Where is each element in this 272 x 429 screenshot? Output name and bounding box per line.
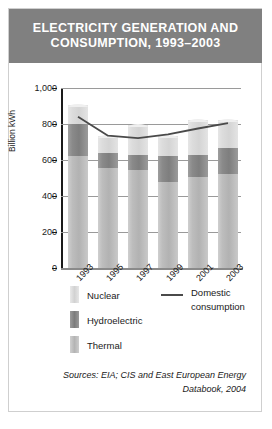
y-axis-tick-labels: 02004006008001,000: [9, 88, 57, 268]
chart-legend: Nuclear Hydroelectric Thermal Domestic c…: [9, 284, 262, 356]
legend-swatch-hydroelectric: [70, 311, 79, 328]
y-tick-mark: [52, 232, 57, 233]
legend-label-domestic-line2: consumption: [191, 301, 245, 312]
page-title: ELECTRICITY GENERATION AND CONSUMPTION, …: [9, 9, 262, 63]
legend-label-hydroelectric: Hydroelectric: [87, 315, 142, 326]
legend-swatch-thermal: [70, 336, 79, 353]
figure-card: ELECTRICITY GENERATION AND CONSUMPTION, …: [0, 0, 272, 429]
y-tick-mark: [52, 196, 57, 197]
legend-swatch-domestic-consumption: [161, 294, 183, 296]
sources-note: Sources: EIA; CIS and East European Ener…: [24, 368, 246, 396]
y-tick-mark: [52, 160, 57, 161]
line-path-domestic-consumption: [78, 117, 228, 138]
y-tick-mark: [52, 268, 57, 269]
legend-swatch-nuclear: [70, 286, 79, 303]
legend-label-thermal: Thermal: [87, 340, 122, 351]
y-tick-mark: [52, 124, 57, 125]
sources-line2: Databook, 2004: [24, 382, 246, 396]
y-tick-mark: [52, 88, 57, 89]
chart-title-band: ELECTRICITY GENERATION AND CONSUMPTION, …: [9, 9, 262, 63]
chart-title-line2: CONSUMPTION, 1993–2003: [51, 36, 221, 51]
domestic-consumption-line: [61, 88, 241, 268]
chart-title-line1: ELECTRICITY GENERATION AND: [33, 21, 239, 36]
sources-line1: Sources: EIA; CIS and East European Ener…: [24, 368, 246, 382]
chart-plot-area: Billion kWh 02004006008001,000 199319951…: [9, 64, 262, 279]
legend-label-nuclear: Nuclear: [87, 290, 120, 301]
legend-label-domestic-line1: Domestic: [191, 287, 231, 298]
